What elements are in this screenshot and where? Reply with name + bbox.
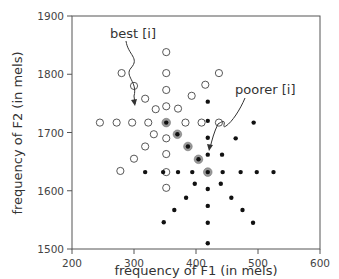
open-circle-point: [163, 184, 170, 191]
filled-dot-point: [206, 221, 210, 225]
open-circle-point: [182, 119, 189, 126]
annotations: best [i] poorer [i]: [110, 26, 295, 151]
filled-dot-point: [184, 196, 188, 200]
open-circle-point: [163, 69, 170, 76]
open-circle-point: [163, 86, 170, 93]
open-circle-point: [130, 155, 137, 162]
y-tick-label: 1900: [37, 10, 64, 22]
filled-dot-point: [206, 136, 210, 140]
x-tick-label: 200: [62, 257, 82, 269]
filled-dot-point: [240, 208, 244, 212]
filled-dot-point: [190, 170, 194, 174]
open-circle-point: [129, 119, 136, 126]
plot-border: [72, 16, 320, 249]
filled-dot-point: [161, 170, 165, 174]
open-circle-point: [163, 135, 170, 142]
open-circle-point: [198, 119, 205, 126]
filled-dot-point: [176, 170, 180, 174]
open-circle-point: [142, 95, 149, 102]
y-axis-ticks: 15001600170018001900: [37, 10, 72, 255]
open-circle-point: [145, 119, 152, 126]
open-circle-point: [96, 119, 103, 126]
open-circle-point: [152, 106, 159, 113]
best-arrowhead-icon: [131, 99, 137, 106]
filled-dot-point: [220, 170, 224, 174]
open-circle-point: [142, 143, 149, 150]
filled-dot-point: [206, 119, 210, 123]
open-circle-point: [118, 69, 125, 76]
best-i-label: best [i]: [110, 26, 156, 41]
open-circle-point: [113, 119, 120, 126]
filled-dot-point: [193, 182, 197, 186]
open-circle-point: [163, 150, 170, 157]
open-circle-point: [215, 119, 222, 126]
open-circle-point: [117, 167, 124, 174]
filled-dot-point: [172, 208, 176, 212]
filled-dot-point: [219, 182, 223, 186]
filled-dot-point: [233, 136, 237, 140]
halo-point-core: [186, 144, 190, 148]
open-circle-point: [163, 103, 170, 110]
filled-dot-point: [206, 241, 210, 245]
filled-dot-point: [251, 221, 255, 225]
open-circle-point: [163, 49, 170, 56]
y-tick-label: 1600: [37, 185, 64, 197]
filled-dot-point: [206, 152, 210, 156]
filled-dot-point: [206, 99, 210, 103]
filled-dot-point: [271, 170, 275, 174]
plot-frame: [72, 16, 320, 249]
filled-dot-point: [143, 170, 147, 174]
open-circle-point: [202, 81, 209, 88]
open-circle-point: [188, 92, 195, 99]
filled-dot-point: [229, 196, 233, 200]
filled-dot-point: [206, 204, 210, 208]
data-points: [96, 49, 275, 246]
open-circle-point: [215, 69, 222, 76]
filled-dot-point: [238, 170, 242, 174]
y-tick-label: 1800: [37, 68, 64, 80]
halo-point-core: [206, 170, 210, 174]
best-arrow-line: [126, 41, 135, 104]
open-circle-point: [150, 131, 157, 138]
y-tick-label: 1700: [37, 127, 64, 139]
filled-dot-point: [162, 220, 166, 224]
filled-dot-point: [251, 120, 255, 124]
halo-point-core: [196, 157, 200, 161]
filled-dot-point: [206, 187, 210, 191]
poorer-arrowhead-icon: [207, 144, 213, 151]
scatter-chart: 15001600170018001900 200300400500600 bes…: [0, 0, 339, 279]
y-axis-label: frequency of F2 (in mels): [10, 51, 25, 214]
poorer-i-label: poorer [i]: [235, 82, 295, 97]
x-axis-label: frequency of F1 (in mels): [114, 263, 277, 278]
halo-point-core: [175, 132, 179, 136]
x-tick-label: 600: [310, 257, 330, 269]
open-circle-point: [174, 105, 181, 112]
filled-dot-point: [255, 170, 259, 174]
halo-point-core: [164, 120, 168, 124]
filled-dot-point: [220, 152, 224, 156]
y-tick-label: 1500: [37, 243, 64, 255]
